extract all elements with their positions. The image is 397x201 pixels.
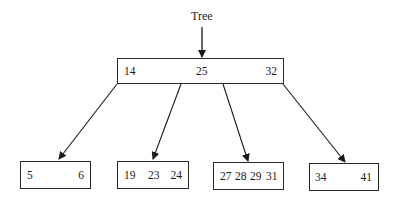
leaf-1-key-2: 6 [78, 169, 84, 181]
edge-root-to-leaf-1 [59, 84, 117, 159]
edge-root-to-leaf-2 [153, 84, 181, 159]
leaf-2-key-3: 24 [171, 169, 183, 181]
leaf-node-4: 34 41 [309, 163, 379, 191]
leaf-3-key-3: 29 [250, 170, 262, 182]
leaf-3-key-1: 27 [220, 170, 232, 182]
tree-pointer-label: Tree [191, 9, 213, 24]
root-key-3: 32 [266, 65, 278, 77]
root-key-1: 14 [124, 65, 136, 77]
leaf-2-key-2: 23 [148, 169, 160, 181]
leaf-2-key-1: 19 [124, 169, 136, 181]
leaf-3-key-4: 31 [266, 170, 278, 182]
root-key-2: 25 [196, 65, 208, 77]
leaf-node-1: 5 6 [20, 161, 91, 189]
edge-root-to-leaf-4 [283, 84, 345, 162]
leaf-4-key-1: 34 [315, 171, 327, 183]
root-node: 14 25 32 [117, 58, 284, 84]
leaf-node-2: 19 23 24 [117, 161, 189, 189]
leaf-3-key-2: 28 [235, 170, 247, 182]
edge-root-to-leaf-3 [223, 84, 248, 161]
leaf-4-key-2: 41 [361, 171, 373, 183]
leaf-1-key-1: 5 [27, 169, 33, 181]
leaf-node-3: 27 28 29 31 [213, 162, 284, 190]
